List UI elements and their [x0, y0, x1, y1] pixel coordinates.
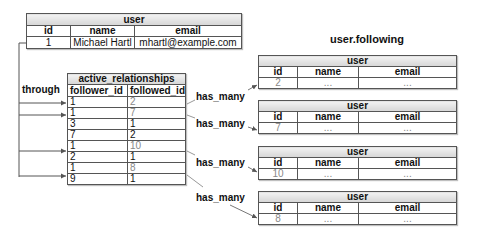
followed-user-table: user id name email 2 ... ...	[258, 55, 457, 89]
table-row: 2 1	[68, 152, 186, 163]
has-many-label: has_many	[196, 118, 245, 129]
column-header-follower-id: follower_id	[68, 85, 128, 97]
cell-followed-id: 8	[128, 163, 186, 174]
cell-id: 2	[259, 78, 298, 89]
cell-follower-id: 1	[68, 97, 128, 108]
user-table: user id name email 1 Michael Hartl mhart…	[26, 13, 242, 49]
column-header-email: email	[359, 67, 457, 78]
cell-id: 7	[259, 123, 298, 134]
table-title: user	[259, 101, 457, 112]
cell-name: ...	[298, 78, 359, 89]
table-row: 1 7	[68, 108, 186, 119]
cell-email: ...	[359, 78, 457, 89]
table-title: user	[259, 147, 457, 158]
column-header-name: name	[298, 203, 359, 214]
table-row: 1 2	[68, 97, 186, 108]
table-row: 10 ... ...	[259, 169, 457, 180]
cell-follower-id: 1	[68, 108, 128, 119]
followed-user-table: user id name email 10 ... ...	[258, 146, 457, 180]
cell-name: ...	[298, 169, 359, 180]
column-header-id: id	[259, 158, 298, 169]
cell-followed-id: 2	[128, 130, 186, 141]
cell-email: ...	[359, 169, 457, 180]
active-relationships-table: active_relationships follower_id followe…	[67, 73, 186, 185]
cell-name: ...	[298, 214, 359, 225]
cell-id: 10	[259, 169, 298, 180]
cell-followed-id: 1	[128, 119, 186, 130]
table-title: user	[259, 56, 457, 67]
followed-user-table: user id name email 8 ... ...	[258, 191, 457, 225]
cell-followed-id: 1	[128, 174, 186, 185]
cell-email: mhartl@example.com	[135, 37, 242, 49]
has-many-label: has_many	[196, 157, 245, 168]
cell-follower-id: 1	[68, 141, 128, 152]
column-header-id: id	[259, 112, 298, 123]
table-title: user	[259, 192, 457, 203]
column-header-name: name	[298, 158, 359, 169]
column-header-followed-id: followed_id	[128, 85, 186, 97]
column-header-email: email	[359, 203, 457, 214]
column-header-email: email	[359, 112, 457, 123]
table-row: 9 1	[68, 174, 186, 185]
table-row: 7 2	[68, 130, 186, 141]
column-header-name: name	[71, 26, 135, 37]
table-row: 2 ... ...	[259, 78, 457, 89]
cell-follower-id: 3	[68, 119, 128, 130]
column-header-id: id	[259, 203, 298, 214]
cell-name: Michael Hartl	[71, 37, 135, 49]
column-header-name: name	[298, 67, 359, 78]
cell-email: ...	[359, 123, 457, 134]
cell-follower-id: 9	[68, 174, 128, 185]
column-header-name: name	[298, 112, 359, 123]
user-following-heading: user.following	[330, 33, 404, 45]
column-header-id: id	[259, 67, 298, 78]
table-row: 3 1	[68, 119, 186, 130]
table-title: active_relationships	[68, 74, 186, 85]
cell-email: ...	[359, 214, 457, 225]
column-header-email: email	[135, 26, 242, 37]
cell-id: 1	[27, 37, 71, 49]
column-header-email: email	[359, 158, 457, 169]
column-header-id: id	[27, 26, 71, 37]
table-row: 1 10	[68, 141, 186, 152]
cell-follower-id: 1	[68, 163, 128, 174]
table-title: user	[27, 14, 242, 26]
cell-followed-id: 7	[128, 108, 186, 119]
cell-followed-id: 10	[128, 141, 186, 152]
through-label: through	[22, 84, 60, 95]
cell-name: ...	[298, 123, 359, 134]
table-row: 8 ... ...	[259, 214, 457, 225]
table-row: 1 Michael Hartl mhartl@example.com	[27, 37, 242, 49]
cell-follower-id: 7	[68, 130, 128, 141]
cell-id: 8	[259, 214, 298, 225]
table-row: 7 ... ...	[259, 123, 457, 134]
has-many-label: has_many	[196, 91, 245, 102]
followed-user-table: user id name email 7 ... ...	[258, 100, 457, 134]
cell-followed-id: 2	[128, 97, 186, 108]
cell-follower-id: 2	[68, 152, 128, 163]
has-many-label: has_many	[196, 192, 245, 203]
cell-followed-id: 1	[128, 152, 186, 163]
table-row: 1 8	[68, 163, 186, 174]
